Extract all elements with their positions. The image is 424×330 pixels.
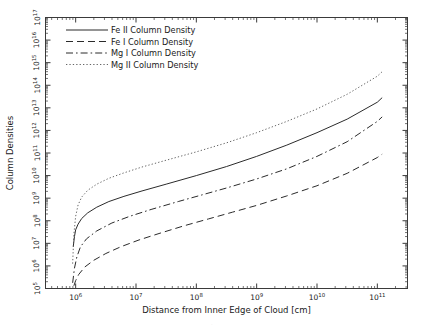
legend-label-1: Fe I Column Density [111, 37, 193, 47]
plot-frame [46, 18, 408, 289]
y-axis-title: Column Densities [5, 115, 15, 190]
axis-tick-label: 107 [130, 292, 143, 302]
series-line-0 [73, 98, 382, 247]
axis-tick-label: 109 [32, 191, 42, 205]
axis-tick-label: 107 [32, 237, 42, 250]
x-axis-title: Distance from Inner Edge of Cloud [cm] [142, 305, 311, 315]
axis-tick-label: 1011 [369, 292, 385, 302]
figure-caption: . [0, 320, 424, 330]
series-line-2 [73, 117, 383, 283]
axis-tick-label: 1013 [32, 100, 42, 116]
figure-container: 1061071081091010101110510610710810910101… [0, 0, 424, 330]
legend-label-3: Mg II Column Density [111, 60, 199, 70]
axis-tick-label: 106 [32, 259, 42, 273]
series-line-3 [73, 72, 383, 264]
axis-tick-label: 1016 [32, 31, 42, 48]
axis-tick-label: 1012 [32, 122, 42, 138]
axis-tick-label: 1017 [32, 9, 42, 25]
axis-tick-label: 105 [32, 282, 42, 295]
legend-label-0: Fe II Column Density [111, 25, 196, 35]
axis-tick-label: 1014 [32, 76, 42, 93]
axis-tick-label: 1010 [309, 292, 326, 302]
axis-tick-label: 1011 [32, 145, 42, 161]
axis-tick-label: 109 [250, 292, 264, 302]
legend-label-2: Mg I Column Density [111, 48, 196, 58]
axis-tick-label: 106 [69, 292, 83, 302]
column-density-plot: 1061071081091010101110510610710810910101… [0, 0, 424, 330]
axis-tick-label: 108 [32, 214, 42, 228]
axis-tick-label: 108 [190, 292, 204, 302]
axis-tick-label: 1010 [32, 167, 42, 184]
axis-tick-label: 1015 [32, 54, 42, 70]
